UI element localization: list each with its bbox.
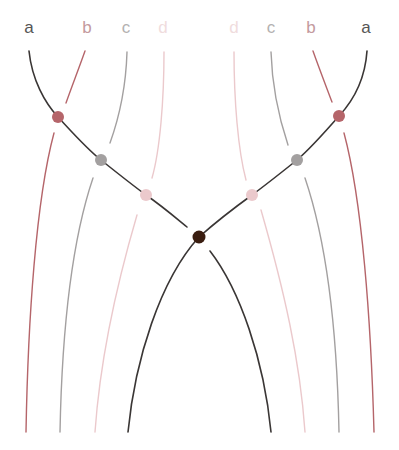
strand-c-right-lower (305, 178, 339, 432)
label-left-d: d (158, 18, 167, 38)
strand-c-right-upper (271, 52, 288, 145)
node-right-d (246, 189, 258, 201)
node-right-c (291, 154, 303, 166)
crossing-diagram: a b c d d c b a (0, 0, 399, 450)
label-right-b: b (306, 18, 315, 38)
strand-a-right-over (128, 51, 367, 432)
label-left-b: b (82, 18, 91, 38)
strand-c-left-upper (110, 52, 127, 143)
node-left-c (95, 154, 107, 166)
strand-b-right-upper (313, 51, 332, 102)
label-right-d: d (229, 18, 238, 38)
label-right-a: a (361, 18, 370, 38)
strand-c-left-lower (60, 178, 93, 432)
strand-d-right-upper (234, 52, 246, 180)
label-left-a: a (24, 18, 33, 38)
strand-a-right-lower (210, 251, 271, 432)
label-right-c: c (267, 18, 276, 38)
diagram-canvas (0, 0, 399, 450)
strand-d-left-lower (95, 215, 137, 432)
node-center (193, 231, 206, 244)
strand-b-left-upper (66, 51, 85, 103)
strand-b-right-lower (344, 133, 374, 432)
node-left-b (52, 111, 64, 123)
label-left-c: c (122, 18, 131, 38)
strand-d-right-lower (261, 210, 305, 432)
node-left-d (140, 189, 152, 201)
strand-b-left-lower (26, 133, 54, 432)
node-right-b (333, 110, 345, 122)
strand-d-left-upper (152, 52, 164, 178)
